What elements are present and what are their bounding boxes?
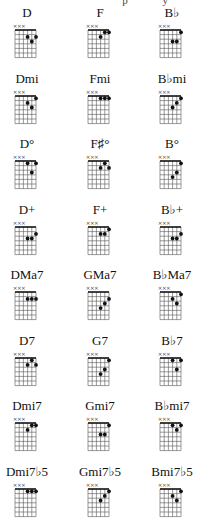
finger-dot-icon bbox=[30, 297, 34, 301]
finger-dot-icon bbox=[26, 35, 30, 39]
chord-diagram: B♭Ma7××× bbox=[142, 268, 202, 330]
muted-string-icon: × bbox=[94, 482, 99, 488]
finger-dot-icon bbox=[26, 161, 30, 165]
muted-string-icon: × bbox=[21, 154, 26, 160]
chord-name: F+ bbox=[70, 203, 130, 217]
chord-name: B♭ bbox=[142, 6, 202, 20]
finger-dot-icon bbox=[99, 306, 103, 310]
finger-dot-icon bbox=[30, 40, 34, 44]
finger-dot-icon bbox=[99, 372, 103, 376]
finger-dot-icon bbox=[103, 232, 107, 236]
muted-string-icon: × bbox=[94, 416, 99, 422]
finger-dot-icon bbox=[179, 423, 183, 427]
muted-string-icon: × bbox=[21, 285, 26, 291]
chord-diagram: Gmi7♭5××× bbox=[70, 465, 130, 527]
finger-dot-icon bbox=[107, 166, 111, 170]
finger-dot-icon bbox=[107, 489, 111, 493]
muted-string-icon: × bbox=[94, 351, 99, 357]
chord-name: Dmi7 bbox=[0, 399, 57, 413]
finger-dot-icon bbox=[34, 423, 38, 427]
finger-dot-icon bbox=[107, 423, 111, 427]
finger-dot-icon bbox=[171, 358, 175, 362]
finger-dot-icon bbox=[26, 428, 30, 432]
finger-dot-icon bbox=[99, 35, 103, 39]
fretboard-grid: ××× bbox=[157, 350, 187, 388]
muted-string-icon: × bbox=[94, 89, 99, 95]
muted-string-icon: × bbox=[166, 482, 171, 488]
finger-dot-icon bbox=[179, 358, 183, 362]
chord-diagram: B♭7××× bbox=[142, 334, 202, 396]
finger-dot-icon bbox=[26, 101, 30, 105]
muted-string-icon: × bbox=[21, 220, 26, 226]
finger-dot-icon bbox=[171, 423, 175, 427]
chord-diagram: D7××× bbox=[0, 334, 57, 396]
finger-dot-icon bbox=[103, 302, 107, 306]
finger-dot-icon bbox=[175, 101, 179, 105]
finger-dot-icon bbox=[175, 302, 179, 306]
fretboard-grid: ××× bbox=[85, 219, 115, 257]
muted-string-icon: × bbox=[166, 416, 171, 422]
chord-name: Gmi7♭5 bbox=[70, 465, 130, 479]
chord-name: B♭Ma7 bbox=[142, 268, 202, 282]
finger-dot-icon bbox=[30, 423, 34, 427]
finger-dot-icon bbox=[179, 161, 183, 165]
muted-string-icon: × bbox=[166, 351, 171, 357]
chord-name: GMa7 bbox=[70, 268, 130, 282]
finger-dot-icon bbox=[175, 171, 179, 175]
fretboard-grid: ××× bbox=[12, 481, 42, 519]
muted-string-icon: × bbox=[94, 154, 99, 160]
finger-dot-icon bbox=[171, 40, 175, 44]
muted-string-icon: × bbox=[166, 23, 171, 29]
finger-dot-icon bbox=[99, 166, 103, 170]
finger-dot-icon bbox=[107, 96, 111, 100]
finger-dot-icon bbox=[179, 489, 183, 493]
finger-dot-icon bbox=[171, 175, 175, 179]
chord-diagram: DMa7××× bbox=[0, 268, 57, 330]
finger-dot-icon bbox=[34, 297, 38, 301]
fretboard-grid: ××× bbox=[85, 22, 115, 60]
fretboard-grid: ××× bbox=[157, 284, 187, 322]
finger-dot-icon bbox=[103, 96, 107, 100]
fretboard-grid: ××× bbox=[85, 88, 115, 126]
chord-diagram: D°××× bbox=[0, 137, 57, 199]
chord-name: G7 bbox=[70, 334, 130, 348]
chord-name: B♭mi7 bbox=[142, 399, 202, 413]
finger-dot-icon bbox=[30, 358, 34, 362]
fretboard-grid: ××× bbox=[157, 415, 187, 453]
finger-dot-icon bbox=[103, 161, 107, 165]
finger-dot-icon bbox=[171, 297, 175, 301]
fretboard-grid: ××× bbox=[85, 153, 115, 191]
chord-diagram: D+××× bbox=[0, 203, 57, 265]
chord-diagram: Gmi7××× bbox=[70, 399, 130, 461]
chord-name: F♯° bbox=[70, 137, 130, 151]
chord-name: B♭7 bbox=[142, 334, 202, 348]
chord-diagram: Dmi7××× bbox=[0, 399, 57, 461]
chord-name: Bmi7♭5 bbox=[142, 465, 202, 479]
muted-string-icon: × bbox=[94, 23, 99, 29]
finger-dot-icon bbox=[99, 96, 103, 100]
muted-string-icon: × bbox=[21, 23, 26, 29]
muted-string-icon: × bbox=[21, 416, 26, 422]
chord-name: B♭mi bbox=[142, 72, 202, 86]
chord-name: D+ bbox=[0, 203, 57, 217]
fretboard-grid: ××× bbox=[85, 284, 115, 322]
chord-diagram: F+××× bbox=[70, 203, 130, 265]
finger-dot-icon bbox=[103, 494, 107, 498]
finger-dot-icon bbox=[34, 35, 38, 39]
chord-diagram: GMa7××× bbox=[70, 268, 130, 330]
chord-diagram: Fmi××× bbox=[70, 72, 130, 134]
fretboard-grid: ××× bbox=[12, 88, 42, 126]
muted-string-icon: × bbox=[166, 154, 171, 160]
finger-dot-icon bbox=[99, 433, 103, 437]
finger-dot-icon bbox=[34, 161, 38, 165]
finger-dot-icon bbox=[34, 363, 38, 367]
chord-diagram: Dmi××× bbox=[0, 72, 57, 134]
chord-diagram: B♭mi××× bbox=[142, 72, 202, 134]
muted-string-icon: × bbox=[166, 89, 171, 95]
chord-diagram: B♭××× bbox=[142, 6, 202, 68]
muted-string-icon: × bbox=[166, 220, 171, 226]
muted-string-icon: × bbox=[94, 220, 99, 226]
fretboard-grid: ××× bbox=[12, 415, 42, 453]
fretboard-grid: ××× bbox=[157, 219, 187, 257]
chord-diagram: B°××× bbox=[142, 137, 202, 199]
